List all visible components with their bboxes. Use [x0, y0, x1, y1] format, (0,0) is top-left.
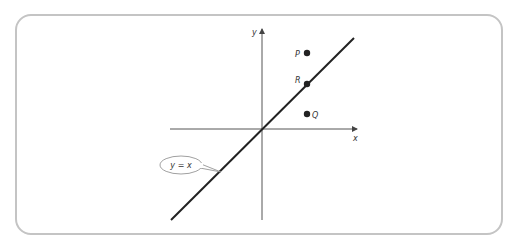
line-label-callout: y = x	[160, 156, 221, 174]
x-axis-label: x	[352, 134, 358, 143]
point-p: P	[295, 50, 310, 59]
coordinate-plane: x y y = x P R Q	[0, 0, 519, 248]
line-label: y = x	[169, 161, 192, 170]
point-r: R	[295, 76, 310, 87]
point-q: Q	[304, 111, 318, 120]
point-q-label: Q	[312, 111, 318, 120]
point-r-label: R	[295, 76, 301, 85]
point-p-label: P	[295, 50, 300, 59]
y-axis-label: y	[251, 28, 257, 37]
